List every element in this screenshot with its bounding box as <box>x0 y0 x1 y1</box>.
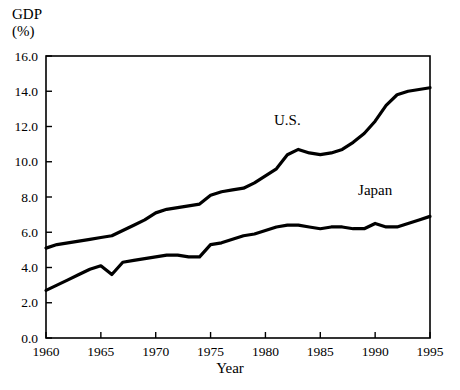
y-tick-label: 8.0 <box>21 190 38 205</box>
x-tick-label: 1965 <box>87 344 114 359</box>
y-tick-label: 4.0 <box>21 260 38 275</box>
x-tick-label: 1985 <box>307 344 334 359</box>
y-tick-label: 14.0 <box>14 84 38 99</box>
x-axis-title: Year <box>0 360 460 377</box>
x-tick-label: 1975 <box>197 344 224 359</box>
y-tick-label: 6.0 <box>21 225 38 240</box>
plot-area: 0.02.04.06.08.010.012.014.016.0196019651… <box>0 0 460 390</box>
x-tick-label: 1970 <box>142 344 169 359</box>
x-tick-label: 1990 <box>362 344 389 359</box>
y-tick-label: 2.0 <box>21 295 38 310</box>
y-tick-label: 16.0 <box>14 49 38 64</box>
y-tick-label: 10.0 <box>14 154 38 169</box>
y-tick-label: 12.0 <box>14 119 38 134</box>
series-label-japan: Japan <box>358 182 393 198</box>
x-tick-label: 1995 <box>417 344 444 359</box>
x-tick-label: 1960 <box>33 344 60 359</box>
gdp-line-chart: GDP(%) 0.02.04.06.08.010.012.014.016.019… <box>0 0 460 390</box>
series-label-us: U.S. <box>274 112 301 128</box>
x-tick-label: 1980 <box>252 344 279 359</box>
